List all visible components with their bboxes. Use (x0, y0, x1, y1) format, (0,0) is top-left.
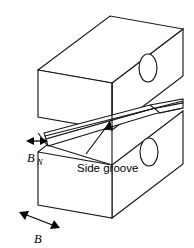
callout-label-text: Side groove (77, 162, 138, 174)
upper-loading-hole (139, 54, 157, 82)
b-label-symbol: B (34, 232, 42, 246)
gross-thickness-dimension: B (19, 211, 60, 246)
b-dimension-line (24, 214, 55, 226)
lower-loading-hole (140, 138, 158, 166)
specimen-drawing-canvas: B N B Side groove (0, 0, 194, 248)
side-groove-figure: B N B Side groove (0, 0, 194, 248)
bn-label-symbol: B (27, 151, 35, 165)
bn-arrow-head-left-icon (26, 137, 34, 145)
